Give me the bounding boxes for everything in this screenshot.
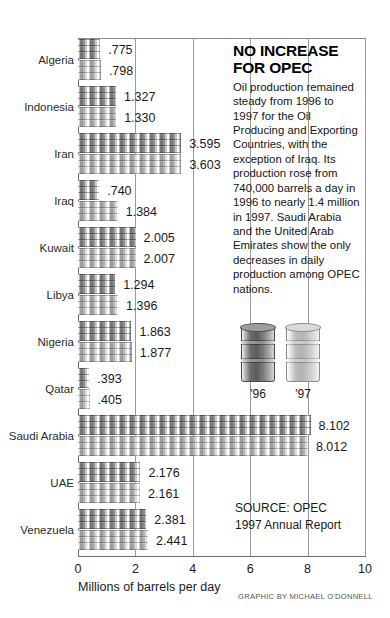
bar-97 — [78, 201, 118, 221]
bar-96 — [78, 86, 116, 106]
bar-value-96: 1.327 — [124, 90, 155, 104]
legend: '96 '97 — [236, 326, 356, 412]
country-bar-group: 2.3812.441 — [78, 509, 148, 550]
x-tick-4: 4 — [189, 562, 196, 576]
bar-97 — [78, 248, 136, 268]
bar-value-96: 2.005 — [144, 231, 175, 245]
country-bar-group: .393.405 — [78, 368, 90, 409]
country-label: Kuwait — [0, 242, 74, 254]
bar-value-97: .798 — [109, 64, 133, 78]
bar-96 — [78, 415, 311, 435]
bar-97 — [78, 530, 148, 550]
bar-96 — [78, 227, 136, 247]
chart-axis-x — [78, 556, 366, 557]
bar-97 — [78, 107, 116, 127]
bar-96 — [78, 462, 140, 482]
country-bar-group: 2.0052.007 — [78, 227, 136, 268]
country-bar-group: 1.8631.877 — [78, 321, 132, 362]
bar-value-97: .405 — [98, 393, 122, 407]
legend-year-96: '96 — [236, 387, 280, 401]
bar-value-97: 1.877 — [140, 346, 171, 360]
bar-value-97: 1.396 — [126, 299, 157, 313]
x-tick-10: 10 — [358, 562, 372, 576]
country-bar-group: 2.1762.161 — [78, 462, 140, 503]
bar-value-97: 2.007 — [144, 252, 175, 266]
bar-96 — [78, 368, 89, 388]
bar-96 — [78, 39, 100, 59]
bar-value-97: 2.161 — [148, 487, 179, 501]
country-bar-group: 1.2941.396 — [78, 274, 118, 315]
bar-97 — [78, 342, 132, 362]
bar-value-97: 1.330 — [124, 111, 155, 125]
bar-97 — [78, 389, 90, 409]
country-label: Iraq — [0, 195, 74, 207]
country-label: Indonesia — [0, 101, 74, 113]
bar-value-97: 8.012 — [316, 440, 347, 454]
country-label: Saudi Arabia — [0, 430, 74, 442]
x-tick-8: 8 — [304, 562, 311, 576]
bar-value-96: 2.176 — [148, 466, 179, 480]
x-tick-0: 0 — [75, 562, 82, 576]
x-tick-2: 2 — [132, 562, 139, 576]
barrel-icon-96 — [241, 326, 275, 382]
bar-value-96: 1.294 — [123, 278, 154, 292]
bar-97 — [78, 60, 101, 80]
country-bar-group: 3.5953.603 — [78, 133, 181, 174]
bar-value-96: 3.595 — [189, 137, 220, 151]
country-label: Qatar — [0, 383, 74, 395]
country-label: Nigeria — [0, 336, 74, 348]
source-line-2: 1997 Annual Report — [235, 517, 341, 534]
bar-96 — [78, 133, 181, 153]
bar-value-96: .775 — [108, 43, 132, 57]
bar-value-96: 2.381 — [154, 513, 185, 527]
bar-value-96: .393 — [97, 372, 121, 386]
source-note: SOURCE: OPEC 1997 Annual Report — [235, 500, 341, 533]
legend-item-97: '97 — [281, 326, 325, 401]
legend-item-96: '96 — [236, 326, 280, 401]
bar-96 — [78, 509, 146, 529]
bar-97 — [78, 295, 118, 315]
bar-value-96: 8.102 — [319, 419, 350, 433]
x-tick-6: 6 — [247, 562, 254, 576]
source-line-1: SOURCE: OPEC — [235, 500, 341, 517]
story-panel: NO INCREASE FOR OPEC Oil production rema… — [233, 42, 361, 296]
graphic-credit: GRAPHIC BY MICHAEL O'DONNELL — [238, 592, 373, 601]
bar-96 — [78, 180, 99, 200]
headline: NO INCREASE FOR OPEC — [233, 42, 361, 77]
bar-96 — [78, 274, 115, 294]
bar-value-97: 1.384 — [126, 205, 157, 219]
bar-value-96: .740 — [107, 184, 131, 198]
bar-97 — [78, 483, 140, 503]
country-label: Venezuela — [0, 524, 74, 536]
story-body: Oil production remained steady from 1996… — [233, 80, 361, 296]
x-axis-title: Millions of barrels per day — [78, 580, 220, 594]
country-label: UAE — [0, 477, 74, 489]
bar-96 — [78, 321, 131, 341]
bar-97 — [78, 436, 308, 456]
country-bar-group: .775.798 — [78, 39, 101, 80]
bar-value-97: 2.441 — [156, 534, 187, 548]
chart-row: Saudi Arabia8.1028.012 — [0, 415, 390, 462]
country-label: Iran — [0, 148, 74, 160]
country-label: Algeria — [0, 54, 74, 66]
country-bar-group: 8.1028.012 — [78, 415, 311, 456]
country-label: Libya — [0, 289, 74, 301]
barrel-icon-97 — [286, 326, 320, 382]
bar-value-96: 1.863 — [139, 325, 170, 339]
bar-97 — [78, 154, 181, 174]
country-bar-group: 1.3271.330 — [78, 86, 116, 127]
bar-value-97: 3.603 — [189, 158, 220, 172]
legend-year-97: '97 — [281, 387, 325, 401]
country-bar-group: .7401.384 — [78, 180, 118, 221]
